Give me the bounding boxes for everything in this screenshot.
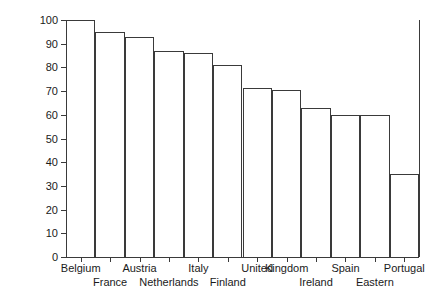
bar: [331, 115, 360, 257]
x-tick: [316, 257, 317, 262]
x-tick-label: Portugal: [384, 262, 425, 274]
y-tick: [61, 44, 66, 45]
y-tick: [61, 91, 66, 92]
x-tick-label: France: [93, 276, 127, 288]
x-tick: [404, 257, 405, 262]
plot-right-edge: [419, 20, 420, 257]
bar: [360, 115, 389, 257]
y-tick-label: 50: [46, 133, 58, 145]
bar: [184, 53, 213, 257]
x-tick-label: Finland: [210, 276, 246, 288]
x-tick-label: Eastern: [356, 276, 394, 288]
x-tick: [140, 257, 141, 262]
x-tick: [228, 257, 229, 262]
y-tick-label: 70: [46, 85, 58, 97]
bar: [213, 65, 242, 257]
y-tick-label: 20: [46, 204, 58, 216]
y-tick-label: 90: [46, 38, 58, 50]
y-tick: [61, 139, 66, 140]
bar: [272, 90, 301, 257]
bar: [95, 32, 124, 257]
x-tick-label: Italy: [188, 262, 208, 274]
x-tick: [81, 257, 82, 262]
x-axis-line: [66, 257, 419, 258]
bar: [390, 174, 419, 257]
y-tick: [61, 257, 66, 258]
y-tick-label: 30: [46, 180, 58, 192]
y-tick: [61, 162, 66, 163]
bar: [154, 51, 183, 257]
x-tick-label: Netherlands: [139, 276, 198, 288]
bar: [243, 88, 272, 257]
x-tick: [375, 257, 376, 262]
bar: [66, 20, 95, 257]
y-tick: [61, 20, 66, 21]
x-tick-label: Kingdom: [265, 262, 308, 274]
y-tick-label: 60: [46, 109, 58, 121]
y-tick-label: 80: [46, 61, 58, 73]
y-tick: [61, 233, 66, 234]
x-tick-label: Ireland: [299, 276, 333, 288]
x-tick: [345, 257, 346, 262]
y-tick-label: 10: [46, 227, 58, 239]
plot-area: 0102030405060708090100: [66, 20, 419, 257]
x-tick-label: Belgium: [61, 262, 101, 274]
x-tick: [287, 257, 288, 262]
x-tick: [169, 257, 170, 262]
bar-series: [66, 20, 419, 257]
x-tick: [257, 257, 258, 262]
bar: [301, 108, 330, 257]
bar: [125, 37, 154, 257]
bar-chart: 0102030405060708090100 BelgiumFranceAust…: [0, 0, 435, 301]
x-tick-label: Spain: [331, 262, 359, 274]
y-tick-label: 40: [46, 156, 58, 168]
x-tick-label: Austria: [122, 262, 156, 274]
y-tick: [61, 186, 66, 187]
y-tick: [61, 115, 66, 116]
y-tick-label: 100: [40, 14, 58, 26]
y-tick-label: 0: [52, 251, 58, 263]
y-tick: [61, 210, 66, 211]
x-tick: [198, 257, 199, 262]
x-tick-label: United: [241, 262, 273, 274]
x-tick: [110, 257, 111, 262]
y-tick: [61, 67, 66, 68]
